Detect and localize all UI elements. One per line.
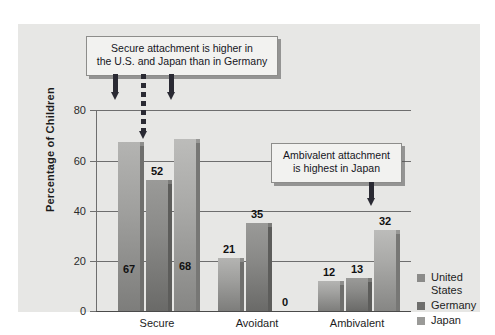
y-tick-label-20: 20 <box>74 255 86 267</box>
legend-label-japan: Japan <box>431 314 461 327</box>
bar-side-face <box>368 282 372 311</box>
legend-swatch-icon-germany <box>417 302 425 310</box>
chart-panel: Percentage of Children 80 60 40 20 0 <box>18 24 480 312</box>
bar-value-avoidant-japan: 0 <box>282 296 288 308</box>
bar-ambivalent-germany[interactable] <box>346 278 372 311</box>
arrow-to-germany-bar <box>139 74 148 139</box>
y-axis-line <box>96 110 97 312</box>
arrow-head <box>167 92 175 100</box>
y-tick-20 <box>90 261 96 262</box>
x-category-avoidant: Avoidant <box>236 317 279 329</box>
y-tick-label-0: 0 <box>80 305 86 317</box>
y-tick-label-80: 80 <box>74 104 86 116</box>
arrow-to-united-states-bar <box>111 74 120 100</box>
x-category-ambivalent: Ambivalent <box>330 317 384 329</box>
chart-legend: United States Germany Japan <box>417 271 476 329</box>
arrow-shaft <box>369 182 374 198</box>
bar-front-face <box>374 230 396 311</box>
bar-avoidant-united-states[interactable] <box>218 258 244 311</box>
bar-value-secure-united-states: 67 <box>123 263 135 275</box>
bar-front-face <box>246 223 268 311</box>
bar-secure-germany[interactable] <box>146 180 172 311</box>
callout-ambivalent-line1: Ambivalent attachment <box>280 149 393 162</box>
bar-front-face <box>174 139 196 311</box>
callout-ambivalent-attachment: Ambivalent attachment is highest in Japa… <box>271 143 402 183</box>
legend-item-united-states[interactable]: United States <box>417 271 476 297</box>
arrow-to-japan-bar <box>167 74 176 100</box>
bar-side-face <box>268 227 272 311</box>
chart-figure: Percentage of Children 80 60 40 20 0 <box>0 0 495 335</box>
bar-side-face <box>196 143 200 311</box>
bar-secure-united-states[interactable] <box>118 142 144 311</box>
y-tick-80 <box>90 110 96 111</box>
legend-item-germany[interactable]: Germany <box>417 299 476 312</box>
bar-front-face <box>118 142 140 311</box>
callout-secure-attachment: Secure attachment is higher in the U.S. … <box>86 36 278 76</box>
legend-label-united-states: United States <box>431 271 463 297</box>
y-tick-40 <box>90 211 96 212</box>
bar-side-face <box>340 285 344 311</box>
bar-side-face <box>396 234 400 311</box>
y-axis-title: Percentage of Children <box>44 87 56 212</box>
legend-label-line1: United <box>431 271 463 283</box>
legend-swatch-icon-japan <box>417 317 425 325</box>
bar-front-face <box>218 258 240 311</box>
bar-value-ambivalent-germany: 13 <box>351 263 363 275</box>
callout-ambivalent-line2: is highest in Japan <box>280 162 393 175</box>
bar-side-face <box>140 146 144 311</box>
bar-front-face <box>346 278 368 311</box>
x-axis-line <box>96 311 411 312</box>
arrow-shaft <box>113 74 118 92</box>
y-tick-label-40: 40 <box>74 205 86 217</box>
bar-front-face <box>318 281 340 311</box>
bar-value-ambivalent-united-states: 12 <box>323 266 335 278</box>
bar-side-face <box>168 184 172 311</box>
bar-value-secure-japan: 68 <box>179 260 191 272</box>
y-tick-label-60: 60 <box>74 155 86 167</box>
arrow-head <box>111 92 119 100</box>
bar-value-avoidant-united-states: 21 <box>223 243 235 255</box>
plot-area: 80 60 40 20 0 67 52 68 <box>96 110 411 312</box>
bar-avoidant-germany[interactable] <box>246 223 272 311</box>
callout-secure-line2: the U.S. and Japan than in Germany <box>95 55 269 68</box>
y-tick-60 <box>90 161 96 162</box>
bar-ambivalent-japan[interactable] <box>374 230 400 311</box>
bar-front-face <box>146 180 168 311</box>
arrow-shaft-dashed <box>141 74 146 131</box>
legend-label-germany: Germany <box>431 299 476 312</box>
bar-value-secure-germany: 52 <box>151 165 163 177</box>
bar-value-ambivalent-japan: 32 <box>379 215 391 227</box>
y-tick-0 <box>90 311 96 312</box>
x-category-secure: Secure <box>140 317 175 329</box>
arrow-to-ambivalent-japan-bar <box>367 182 376 206</box>
arrow-head <box>139 131 147 139</box>
bar-side-face <box>240 262 244 311</box>
bar-ambivalent-united-states[interactable] <box>318 281 344 311</box>
legend-item-japan[interactable]: Japan <box>417 314 476 327</box>
arrow-head <box>367 198 375 206</box>
legend-swatch-icon-united-states <box>417 274 425 282</box>
arrow-shaft <box>169 74 174 92</box>
callout-secure-line1: Secure attachment is higher in <box>95 42 269 55</box>
legend-label-line2: States <box>431 284 462 296</box>
bar-secure-japan[interactable] <box>174 139 200 311</box>
bar-value-avoidant-germany: 35 <box>251 208 263 220</box>
